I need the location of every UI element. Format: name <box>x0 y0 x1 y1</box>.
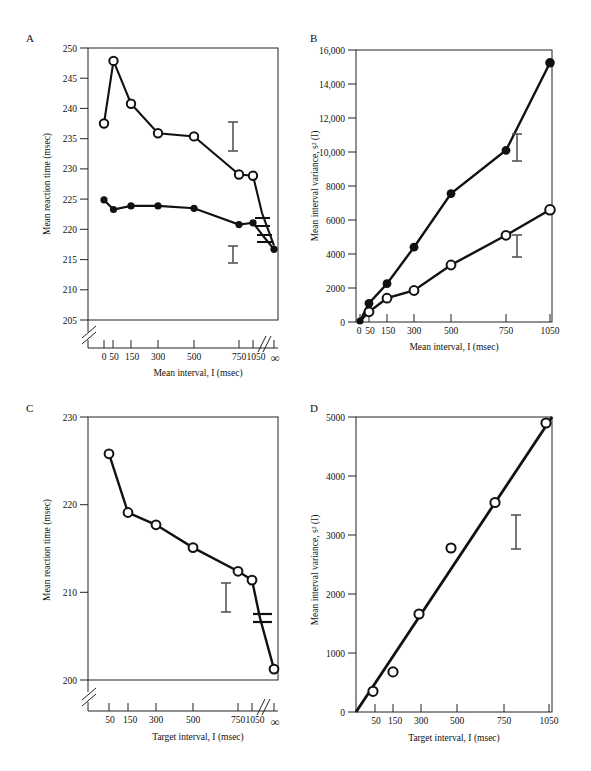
y-tick-label: 12,000 <box>319 114 345 124</box>
x-tick-label-infinity: ∞ <box>271 715 280 729</box>
y-tick-label: 210 <box>63 285 78 295</box>
error-bar-upper <box>228 122 238 151</box>
x-tick-label: 1050 <box>540 716 559 726</box>
y-axis-break-icon <box>82 320 100 348</box>
panel-d: D 0 1000 2000 3000 4000 5000 <box>296 390 591 771</box>
panel-d-chart: D 0 1000 2000 3000 4000 5000 <box>296 390 591 771</box>
x-tick-label: 50 <box>109 352 119 362</box>
y-tick-label: 4000 <box>326 472 345 482</box>
y-axis-break-icon <box>82 680 100 711</box>
panel-d-letter: D <box>310 402 318 414</box>
y-tick-label: 250 <box>63 44 78 54</box>
panel-a-xlabel: Mean interval, I (msec) <box>153 368 242 379</box>
y-tick-label: 14,000 <box>319 80 345 90</box>
series-filled-markers <box>100 196 277 253</box>
x-axis-break-icon <box>257 699 270 715</box>
x-tick-label: 750 <box>232 352 247 362</box>
y-tick-label: 200 <box>63 676 78 686</box>
series-filled-line <box>104 200 253 225</box>
panel-b-chart: B 0 2000 4000 6000 8000 10,000 12,000 14… <box>296 0 591 390</box>
x-axis-labels: 0 50 150 300 500 750 1050 <box>357 326 560 336</box>
y-axis-labels: 0 2000 4000 6000 8000 10,000 12,000 14,0… <box>319 46 345 328</box>
y-tick-label: 230 <box>63 413 78 423</box>
series-open-line <box>104 61 253 176</box>
panel-a: A 205 210 215 220 225 230 235 240 245 <box>0 0 296 390</box>
y-axis-labels: 205 210 215 220 225 230 235 240 245 250 <box>63 44 78 326</box>
x-tick-label: 300 <box>407 326 422 336</box>
x-tick-label: 500 <box>450 716 465 726</box>
x-tick-label: 150 <box>381 326 396 336</box>
x-tick-label: 1050 <box>541 326 560 336</box>
error-bar-lower <box>228 246 238 263</box>
y-tick-label: 0 <box>340 318 345 328</box>
panel-d-xlabel: Target interval, I (msec) <box>408 733 499 744</box>
panel-b-xlabel: Mean interval, I (msec) <box>409 342 498 353</box>
panel-b-letter: B <box>310 32 317 44</box>
y-axis-labels: 200 210 220 230 <box>63 413 78 686</box>
y-tick-label: 220 <box>63 500 78 510</box>
x-tick-label: 300 <box>149 715 164 725</box>
y-tick-label: 4000 <box>326 250 345 260</box>
series-open-markers <box>105 449 279 673</box>
x-tick-label: 1050 <box>247 352 266 362</box>
x-axis-ticks <box>109 703 274 711</box>
x-tick-label: 150 <box>388 716 403 726</box>
panel-a-letter: A <box>26 32 34 44</box>
y-axis-ticks <box>80 417 88 680</box>
x-tick-label: 500 <box>186 715 201 725</box>
plot-area-border <box>88 417 278 680</box>
x-tick-label: 0 <box>357 326 362 336</box>
panel-c-xlabel: Target interval, I (msec) <box>152 732 243 743</box>
y-tick-label: 1000 <box>326 649 345 659</box>
panel-c-ylabel: Mean reaction time (msec) <box>42 499 53 601</box>
y-tick-label: 225 <box>63 195 78 205</box>
panel-b-ylabel: Mean interval variance, s² (I) <box>310 131 321 242</box>
x-tick-label: 50 <box>105 715 115 725</box>
x-tick-label: 500 <box>444 326 459 336</box>
panel-a-chart: A 205 210 215 220 225 230 235 240 245 <box>0 0 296 390</box>
x-tick-label-infinity: ∞ <box>271 351 280 365</box>
y-tick-label: 2000 <box>326 590 345 600</box>
x-tick-label: 1050 <box>246 715 265 725</box>
x-axis-labels: 50 150 300 500 750 1050 ∞ <box>105 715 279 729</box>
x-tick-label: 0 <box>102 352 107 362</box>
x-axis-ticks <box>375 704 549 712</box>
x-tick-label: 150 <box>123 715 138 725</box>
y-axis-ticks <box>80 48 88 320</box>
x-axis-break-icon <box>258 336 271 352</box>
x-axis-labels: 0 50 150 300 500 750 1050 ∞ <box>102 351 280 365</box>
y-tick-label: 205 <box>63 316 78 326</box>
x-tick-label: 500 <box>187 352 202 362</box>
y-tick-label: 230 <box>63 164 78 174</box>
x-tick-label: 50 <box>365 326 375 336</box>
y-tick-label: 3000 <box>326 531 345 541</box>
line-break-marks <box>253 614 272 622</box>
error-bar-lower <box>512 235 522 257</box>
panel-b: B 0 2000 4000 6000 8000 10,000 12,000 14… <box>296 0 591 390</box>
y-tick-label: 10,000 <box>319 148 345 158</box>
panel-c-chart: C 200 210 220 230 <box>0 390 296 771</box>
series-open-markers <box>100 57 257 180</box>
x-tick-label: 50 <box>371 716 381 726</box>
y-tick-label: 215 <box>63 255 78 265</box>
x-axis-ticks <box>360 314 550 322</box>
y-tick-label: 16,000 <box>319 46 345 56</box>
fit-line <box>356 417 552 712</box>
y-tick-label: 0 <box>340 708 345 718</box>
x-axis-labels: 50 150 300 500 750 1050 <box>371 716 559 726</box>
y-axis-ticks <box>348 417 356 712</box>
panel-a-ylabel: Mean reaction time (msec) <box>42 133 53 235</box>
x-tick-label: 750 <box>497 716 512 726</box>
error-bar <box>221 583 231 612</box>
y-tick-label: 8000 <box>326 182 345 192</box>
panel-c-letter: C <box>26 402 33 414</box>
y-tick-label: 240 <box>63 104 78 114</box>
y-tick-label: 210 <box>63 588 78 598</box>
y-axis-labels: 0 1000 2000 3000 4000 5000 <box>326 413 345 718</box>
y-tick-label: 5000 <box>326 413 345 423</box>
y-tick-label: 220 <box>63 225 78 235</box>
panel-c: C 200 210 220 230 <box>0 390 296 771</box>
x-tick-label: 750 <box>231 715 246 725</box>
error-bar <box>511 515 521 549</box>
y-tick-label: 2000 <box>326 284 345 294</box>
